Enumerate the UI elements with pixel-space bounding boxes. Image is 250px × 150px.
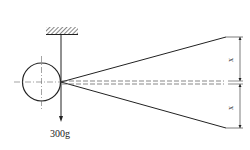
wedge [61,37,243,128]
arrow-down-icon [239,78,242,81]
ceiling-support [46,27,78,35]
arrow-down-icon [239,125,242,128]
arrow-up-icon [239,84,242,87]
dimension-upper: x [226,37,242,81]
arrow-down-icon [59,116,63,122]
center-beams [62,81,243,84]
dimension-label-lower: x [226,106,235,110]
circle-body [14,56,61,110]
dimension-label-upper: x [226,58,235,62]
diagram-canvas: 300g x x [0,0,250,150]
diagram-svg: 300g x x [0,0,250,150]
weight-label: 300g [50,128,70,139]
arrow-up-icon [239,37,242,40]
dimension-lower: x [226,84,242,128]
